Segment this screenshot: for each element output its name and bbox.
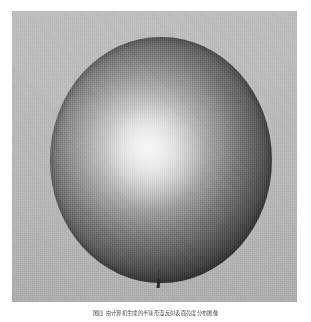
figure-caption: 图四 由计算机生成的半球形漫反射表面亮度分布图像 bbox=[0, 309, 311, 317]
figure-plate bbox=[12, 11, 297, 302]
sphere-highlight bbox=[108, 106, 201, 204]
sphere-halftone-texture bbox=[50, 37, 272, 283]
sphere-terminator-shading bbox=[50, 37, 272, 283]
shaded-sphere bbox=[50, 37, 272, 283]
document-page: 图四 由计算机生成的半球形漫反射表面亮度分布图像 bbox=[0, 0, 311, 322]
